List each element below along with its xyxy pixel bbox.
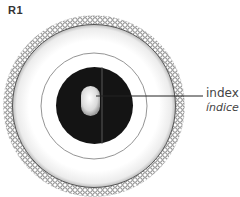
label-index-en: index [206,86,239,100]
index-capsule [81,86,100,116]
record-diagram [0,0,240,197]
label-index-es: índice [206,101,239,114]
